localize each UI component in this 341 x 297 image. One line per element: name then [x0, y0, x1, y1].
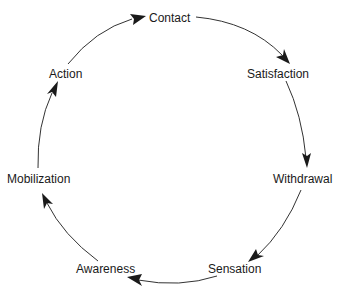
node-awareness: Awareness [76, 262, 135, 276]
arrowhead-action [47, 81, 58, 97]
arrowhead-withdrawal [302, 153, 311, 168]
edge-action-contact [68, 19, 132, 64]
node-mobilization: Mobilization [7, 172, 70, 186]
node-action: Action [49, 67, 82, 81]
node-sensation: Sensation [208, 262, 261, 276]
edge-mobilization-action [38, 93, 52, 168]
cycle-diagram: Contact Satisfaction Withdrawal Sensatio… [0, 0, 341, 297]
node-withdrawal: Withdrawal [273, 172, 332, 186]
edge-satisfaction-withdrawal [286, 81, 306, 158]
edge-withdrawal-sensation [257, 190, 301, 256]
cycle-arrows [0, 0, 341, 297]
arrowhead-mobilization [42, 193, 53, 209]
node-contact: Contact [149, 11, 190, 25]
node-satisfaction: Satisfaction [247, 67, 309, 81]
edge-sensation-awareness [138, 276, 217, 283]
arrowhead-contact [130, 14, 146, 25]
edge-contact-satisfaction [196, 17, 282, 55]
edge-awareness-mobilization [47, 203, 98, 261]
